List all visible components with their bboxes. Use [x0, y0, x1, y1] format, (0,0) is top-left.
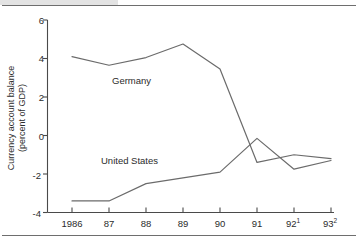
plot-area: [0, 0, 358, 243]
x-tick-marks: [72, 208, 331, 213]
series-line-germany: [72, 44, 331, 162]
chart-figure: Currency account balance (percent of GDP…: [0, 0, 358, 243]
series-line-united-states: [72, 138, 331, 201]
y-tick-marks: [43, 20, 48, 213]
